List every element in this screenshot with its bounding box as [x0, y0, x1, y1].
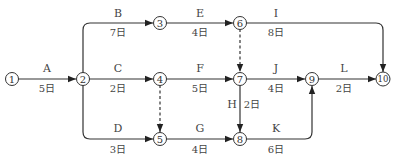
node-label: 2 — [80, 74, 86, 85]
network-diagram: A 5日 B 7日 C 2日 D 3日 E 4日 F 5日 G 4日 H 2日 … — [0, 0, 395, 156]
activity-label-F: F — [196, 62, 204, 75]
node-6: 6 — [234, 17, 247, 30]
activity-label-H: H — [227, 98, 237, 111]
activity-arrow-I — [246, 23, 383, 72]
node-3: 3 — [154, 17, 167, 30]
node-5: 5 — [154, 133, 167, 146]
node-4: 4 — [154, 73, 167, 86]
node-label: 6 — [237, 18, 243, 29]
activity-label-D: D — [114, 122, 123, 135]
node-label: 10 — [378, 74, 389, 84]
node-label: 7 — [237, 74, 243, 85]
activity-duration-A: 5日 — [39, 83, 55, 94]
node-10: 10 — [376, 72, 390, 86]
node-1: 1 — [6, 73, 19, 86]
activity-duration-I: 8日 — [268, 27, 284, 38]
activity-label-L: L — [340, 62, 348, 75]
activity-duration-L: 2日 — [336, 83, 352, 94]
node-label: 3 — [157, 18, 163, 29]
activity-label-J: J — [273, 62, 278, 75]
activity-duration-B: 7日 — [110, 27, 126, 38]
activity-duration-J: 4日 — [268, 83, 284, 94]
activity-label-G: G — [196, 122, 205, 135]
activity-duration-D: 3日 — [110, 144, 126, 155]
node-label: 5 — [157, 134, 163, 145]
activity-duration-C: 2日 — [110, 83, 126, 94]
activity-label-C: C — [114, 62, 122, 75]
activity-label-K: K — [272, 122, 281, 135]
node-2: 2 — [77, 73, 90, 86]
activity-duration-E: 4日 — [192, 27, 208, 38]
node-label: 9 — [309, 74, 315, 85]
activity-duration-K: 6日 — [268, 144, 284, 155]
activity-duration-F: 5日 — [192, 83, 208, 94]
activity-duration-H: 2日 — [244, 99, 260, 110]
activity-duration-G: 4日 — [192, 144, 208, 155]
activity-label-I: I — [274, 7, 278, 20]
node-7: 7 — [234, 73, 247, 86]
node-label: 1 — [9, 74, 15, 85]
node-9: 9 — [306, 73, 319, 86]
activity-label-B: B — [114, 7, 122, 20]
activity-label-A: A — [42, 62, 52, 75]
node-8: 8 — [234, 133, 247, 146]
node-label: 8 — [237, 134, 243, 145]
node-label: 4 — [157, 74, 163, 85]
activity-label-E: E — [196, 7, 204, 20]
